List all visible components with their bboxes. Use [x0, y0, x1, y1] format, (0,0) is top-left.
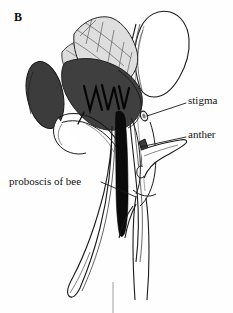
banner-petal	[135, 11, 189, 97]
leader-line-stigma	[147, 103, 186, 116]
figure-drawing	[0, 0, 233, 313]
botanical-illustration-panel: B stigma anther proboscis of bee	[0, 0, 233, 313]
label-proboscis-of-bee: proboscis of bee	[9, 175, 81, 187]
label-stigma: stigma	[188, 94, 217, 106]
panel-letter: B	[14, 11, 22, 23]
label-anther: anther	[188, 128, 215, 140]
